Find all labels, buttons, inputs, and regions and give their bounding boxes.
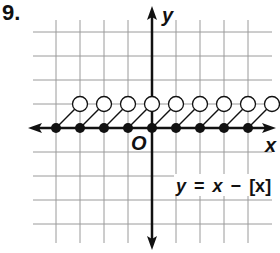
graph: y x O y = x − [x] — [0, 0, 280, 253]
origin-label: O — [131, 132, 147, 154]
open-point — [169, 97, 184, 112]
function-segments — [56, 109, 267, 128]
open-point — [241, 97, 256, 112]
closed-point — [243, 123, 253, 133]
open-point — [73, 97, 88, 112]
svg-text:y = x: y = x − [x] — [175, 176, 271, 196]
equation-label: y = x − [x] — [174, 174, 274, 196]
open-point — [97, 97, 112, 112]
open-point — [217, 97, 232, 112]
closed-points — [51, 123, 253, 133]
closed-point — [147, 123, 157, 133]
open-point — [265, 97, 280, 112]
closed-point — [171, 123, 181, 133]
open-point — [193, 97, 208, 112]
x-axis-label: x — [264, 134, 277, 156]
open-point — [145, 97, 160, 112]
closed-point — [99, 123, 109, 133]
y-axis-label: y — [161, 4, 174, 26]
closed-point — [195, 123, 205, 133]
closed-point — [75, 123, 85, 133]
closed-point — [219, 123, 229, 133]
open-point — [121, 97, 136, 112]
open-points — [73, 97, 280, 112]
closed-point — [51, 123, 61, 133]
